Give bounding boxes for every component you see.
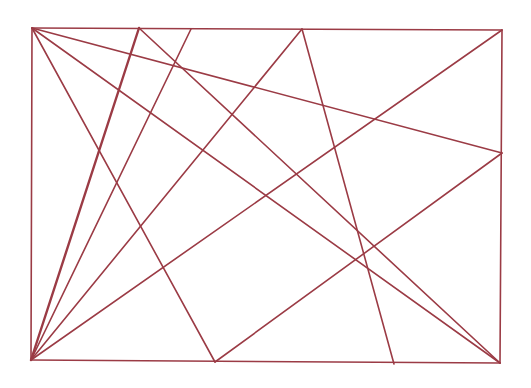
line-c-to-e bbox=[302, 29, 394, 364]
line-frame-top bbox=[32, 28, 502, 30]
line-diagram bbox=[0, 0, 531, 388]
line-frame-left bbox=[31, 28, 32, 360]
line-frame-right bbox=[500, 30, 502, 363]
line-frame-bottom bbox=[31, 360, 500, 363]
diagram-svg bbox=[0, 0, 531, 388]
line-d-to-r bbox=[215, 153, 502, 362]
line-bl-to-tr bbox=[31, 30, 502, 360]
line-tl-to-r bbox=[32, 28, 502, 153]
line-a-to-br bbox=[139, 28, 500, 363]
